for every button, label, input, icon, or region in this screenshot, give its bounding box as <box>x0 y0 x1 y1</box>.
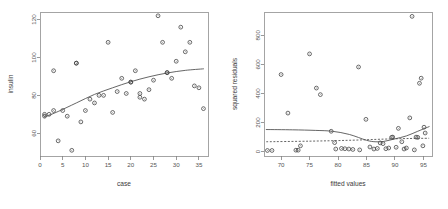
x-tick-label: 25 <box>150 161 157 168</box>
data-point-center <box>281 74 282 75</box>
data-point-center <box>149 89 150 90</box>
right-plot-svg: 7075808590950200400600800 fitted values … <box>224 0 448 209</box>
data-point-center <box>334 142 335 143</box>
data-point-center <box>341 148 342 149</box>
data-point-center <box>144 99 145 100</box>
data-point-center <box>117 91 118 92</box>
data-point-center <box>99 95 100 96</box>
data-point-center <box>76 63 77 64</box>
data-point-center <box>348 149 349 150</box>
plot-panel-squared-residuals-vs-fitted: 7075808590950200400600800 fitted values … <box>224 0 448 209</box>
right-plot-xaxis-title: fitted values <box>330 180 366 187</box>
x-tick-label: 5 <box>61 161 65 168</box>
data-point-center <box>44 114 45 115</box>
left-plot-svg: 051015202530356080100120 case insulin <box>0 0 224 209</box>
data-point-center <box>85 110 86 111</box>
data-point-center <box>398 128 399 129</box>
data-point-center <box>158 15 159 16</box>
right-plot-tick-labels: 7075808590950200400600800 <box>254 30 428 168</box>
data-point-center <box>320 94 321 95</box>
data-point-center <box>406 148 407 149</box>
y-tick-label: 120 <box>30 14 37 25</box>
y-tick-label: 800 <box>254 30 261 41</box>
data-point-center <box>335 149 336 150</box>
data-point-center <box>135 70 136 71</box>
data-point-center <box>126 93 127 94</box>
left-plot-yaxis-title: insulin <box>7 74 14 93</box>
data-point-center <box>94 102 95 103</box>
x-tick-label: 0 <box>38 161 42 168</box>
data-point-center <box>419 83 420 84</box>
data-point-center <box>392 137 393 138</box>
data-point-center <box>162 42 163 43</box>
data-point-center <box>89 99 90 100</box>
data-point-center <box>171 78 172 79</box>
right-plot-ticks <box>261 35 424 159</box>
x-tick-label: 95 <box>420 161 427 168</box>
x-tick-label: 75 <box>306 161 313 168</box>
x-tick-label: 90 <box>392 161 399 168</box>
data-point-center <box>358 67 359 68</box>
data-point-center <box>287 113 288 114</box>
diagnostic-plot-figure: 051015202530356080100120 case insulin 70… <box>0 0 448 209</box>
data-point-center <box>189 42 190 43</box>
left-plot-tick-labels: 051015202530356080100120 <box>30 14 203 168</box>
data-point-center <box>139 93 140 94</box>
data-point-center <box>422 145 423 146</box>
data-point-center <box>103 95 104 96</box>
x-tick-label: 30 <box>173 161 180 168</box>
data-point-center <box>153 80 154 81</box>
data-point-center <box>53 70 54 71</box>
x-tick-label: 80 <box>335 161 342 168</box>
right-plot-fit-curves <box>266 127 429 142</box>
data-point-center <box>112 112 113 113</box>
x-tick-label: 85 <box>363 161 370 168</box>
x-tick-label: 70 <box>278 161 285 168</box>
data-point-center <box>80 121 81 122</box>
x-tick-label: 10 <box>82 161 89 168</box>
y-tick-label: 400 <box>254 88 261 99</box>
data-point-center <box>401 141 402 142</box>
left-plot-data-points <box>43 14 206 152</box>
data-point-center <box>373 149 374 150</box>
data-point-center <box>344 148 345 149</box>
x-tick-label: 15 <box>105 161 112 168</box>
data-point-center <box>53 110 54 111</box>
data-point-center <box>67 116 68 117</box>
right-plot-yaxis-title: squared residuals <box>231 57 239 110</box>
data-point-center <box>108 42 109 43</box>
y-tick-label: 60 <box>30 129 37 136</box>
data-point-center <box>49 114 50 115</box>
loess-fit-line <box>45 69 204 117</box>
data-point-center <box>365 119 366 120</box>
data-point-center <box>194 85 195 86</box>
data-point-center <box>417 137 418 138</box>
data-point-center <box>424 127 425 128</box>
data-point-center <box>388 148 389 149</box>
data-point-center <box>352 149 353 150</box>
data-point-center <box>369 147 370 148</box>
y-tick-label: 100 <box>30 52 37 63</box>
right-plot-data-points <box>266 14 428 152</box>
data-point-center <box>298 150 299 151</box>
data-point-center <box>359 149 360 150</box>
left-plot-fit-curve <box>45 69 204 117</box>
data-point-center <box>180 27 181 28</box>
data-point-center <box>139 97 140 98</box>
plot-panel-insulin-vs-case: 051015202530356080100120 case insulin <box>0 0 224 209</box>
data-point-center <box>71 150 72 151</box>
data-point-center <box>383 143 384 144</box>
data-point-center <box>425 133 426 134</box>
data-point-center <box>300 145 301 146</box>
data-point-center <box>396 147 397 148</box>
data-point-center <box>414 149 415 150</box>
data-point-center <box>421 78 422 79</box>
x-tick-label: 20 <box>127 161 134 168</box>
y-tick-label: 600 <box>254 59 261 70</box>
data-point-center <box>272 150 273 151</box>
data-point-center <box>58 140 59 141</box>
left-plot-xaxis-title: case <box>117 180 131 187</box>
data-point-center <box>309 53 310 54</box>
data-point-center <box>198 87 199 88</box>
data-point-center <box>409 117 410 118</box>
